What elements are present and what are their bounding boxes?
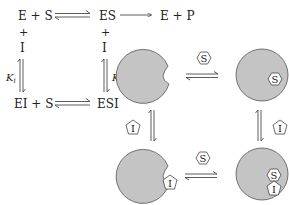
svg-text:I: I (278, 123, 282, 134)
equilibrium-arrow-bottom (55, 99, 90, 109)
equilibrium-arrow-left (18, 59, 26, 92)
inhibitor-pentagon-right: I (273, 120, 287, 134)
svg-text:I: I (168, 178, 172, 189)
es-complex: ES (99, 9, 116, 23)
e-plus-p: E + P (160, 9, 195, 23)
reaction-scheme: E + S ES E + P + + I I Ki Ki EI + S ESI (5, 9, 195, 111)
equilibrium-arrow-cartoon-bottom (185, 172, 217, 181)
enzyme-inhibitor-complex: I (116, 149, 177, 203)
e-plus-s: E + S (18, 9, 53, 23)
svg-text:S: S (200, 153, 207, 164)
ki-label-left: Ki (5, 72, 16, 85)
enzyme-cartoon: S S I I (116, 49, 288, 203)
inhibitor-mid: I (102, 41, 107, 55)
enzyme-substrate-complex: S (236, 49, 288, 101)
uncompetitive-inhibition-diagram: E + S ES E + P + + I I Ki Ki EI + S ESI (0, 0, 289, 205)
plus-left: + (19, 26, 28, 39)
svg-text:S: S (271, 170, 278, 181)
inhibitor-pentagon-left: I (126, 120, 140, 134)
equilibrium-arrow-cartoon-right (256, 110, 264, 141)
svg-text:I: I (272, 184, 276, 195)
svg-text:S: S (272, 74, 279, 85)
equilibrium-arrow-top (55, 11, 90, 21)
ei-plus-s: EI + S (14, 97, 53, 111)
equilibrium-arrow-mid (102, 59, 110, 92)
substrate-hexagon-top: S (197, 52, 211, 64)
substrate-hexagon-bottom: S (196, 152, 210, 164)
equilibrium-arrow-cartoon-left (149, 110, 157, 141)
plus-mid: + (101, 26, 110, 39)
esi-complex: ESI (97, 97, 119, 111)
svg-text:I: I (131, 123, 135, 134)
inhibitor-left: I (20, 41, 25, 55)
enzyme-substrate-inhibitor-complex: S I (236, 148, 288, 200)
equilibrium-arrow-cartoon-top (186, 72, 218, 81)
enzyme-free (116, 49, 169, 103)
svg-text:S: S (201, 53, 208, 64)
